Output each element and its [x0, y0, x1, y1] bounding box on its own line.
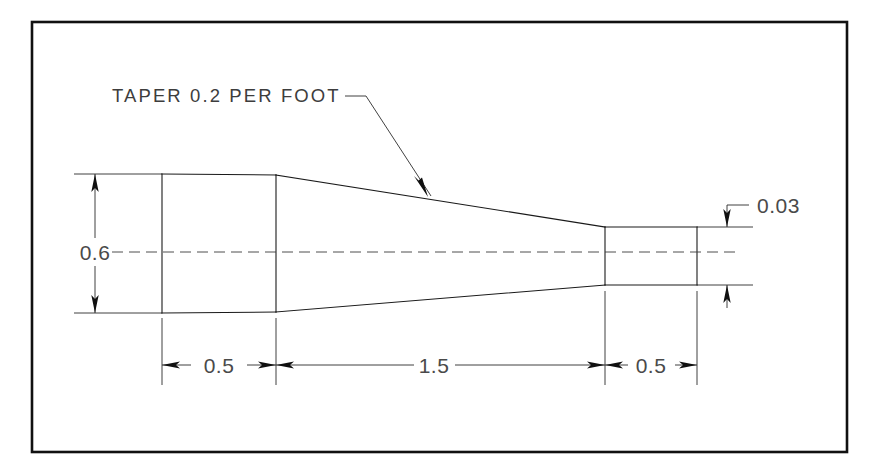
- taper-note-text: TAPER 0.2 PER FOOT: [112, 85, 341, 106]
- dim-value-length-1-5: 1.5: [419, 354, 450, 377]
- dim-value-length-0-5-right: 0.5: [636, 354, 667, 377]
- engineering-drawing-page: 0.6 0.03: [0, 0, 871, 471]
- drawing-canvas: 0.6 0.03: [0, 0, 871, 471]
- dim-value-height-0-6: 0.6: [80, 241, 111, 264]
- dim-value-height-0-03: 0.03: [757, 194, 800, 217]
- dim-value-length-0-5-left: 0.5: [204, 354, 235, 377]
- sheet-background: [0, 0, 871, 471]
